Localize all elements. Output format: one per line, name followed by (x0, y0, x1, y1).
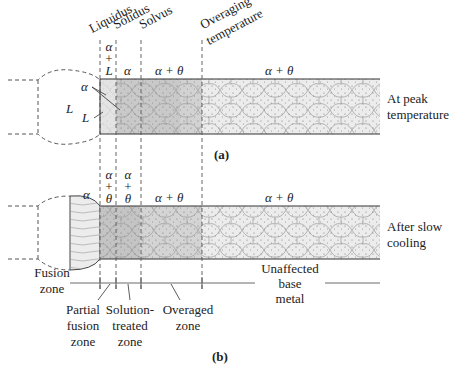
alpha-phase-label: α (124, 64, 131, 77)
fusion-alpha-label: α (83, 188, 90, 201)
partial-fusion-label-3: zone (60, 335, 106, 348)
pool-liquid-pointer-label: L (82, 111, 89, 124)
panel-a-graphic (8, 70, 380, 145)
solution-treated-label-3: zone (104, 335, 156, 348)
pool-alpha-pointer-label: α (81, 80, 88, 93)
unaffected-label-1: Unaffected (255, 262, 325, 275)
solution-treated-label-1: Solution- (104, 303, 156, 316)
solution-treated-label-2: treated (104, 319, 156, 332)
alpha-theta-label-1: α + θ (155, 64, 183, 77)
fusion-zone-label-2: zone (30, 282, 74, 295)
partial-fusion-label-1: Partial (60, 303, 106, 316)
unaffected-label-3: metal (255, 292, 325, 305)
condition-a-line2: temperature (387, 108, 449, 121)
pool-liquid-label: L (66, 102, 73, 115)
b-alpha-theta-2: α + θ (265, 191, 293, 204)
condition-a-line1: At peak (387, 92, 428, 105)
alpha-plus-l-l: L (103, 64, 115, 77)
caption-b: (b) (212, 350, 228, 363)
fusion-zone-label-1: Fusion (30, 266, 74, 279)
b-alpha-theta-1: α + θ (155, 191, 183, 204)
unaffected-label-2: base (255, 277, 325, 290)
alpha-theta-label-2: α + θ (265, 64, 293, 77)
condition-b-line2: cooling (387, 236, 426, 249)
overaged-label-2: zone (160, 319, 216, 332)
condition-b-line1: After slow (387, 220, 442, 233)
caption-a: (a) (214, 148, 229, 161)
b-stack1-theta: θ (103, 192, 115, 205)
overaged-label-1: Overaged (160, 303, 216, 316)
b-stack2-theta: θ (122, 192, 134, 205)
partial-fusion-label-2: fusion (60, 319, 106, 332)
